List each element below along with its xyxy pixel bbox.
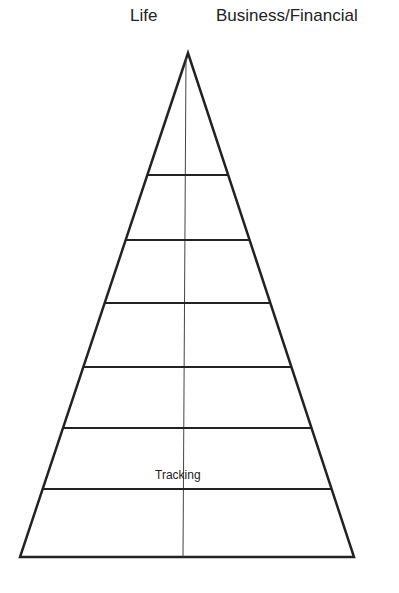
tracking-label: Tracking: [155, 468, 201, 482]
center-divider-line: [183, 58, 186, 557]
pyramid-diagram: [0, 0, 399, 593]
level-lines: [43, 175, 332, 489]
